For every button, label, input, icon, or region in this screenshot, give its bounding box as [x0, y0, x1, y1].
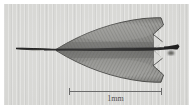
micrograph-plate: 1mm: [4, 4, 189, 105]
scale-bar-label: 1mm: [69, 94, 162, 104]
scale-bar-line: [69, 91, 162, 92]
figure-root: 1mm: [0, 0, 193, 110]
debris-fleck: [168, 51, 174, 55]
